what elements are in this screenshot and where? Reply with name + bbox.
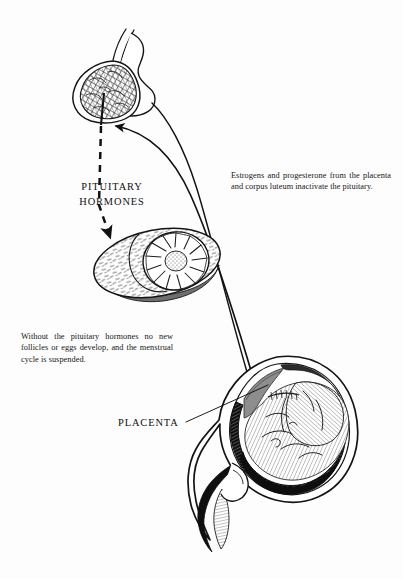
cervix-vagina	[198, 463, 248, 552]
label-pituitary-hormones-line1: PITUITARY	[56, 180, 168, 195]
anatomical-figure	[0, 0, 403, 579]
note-estrogens-progesterone: Estrogens and progesterone from the plac…	[231, 170, 391, 193]
label-pituitary-hormones: PITUITARY HORMONES	[56, 180, 168, 209]
pituitary-gland	[73, 29, 155, 123]
label-placenta: PLACENTA	[118, 416, 179, 429]
figure-page: PITUITARY HORMONES PLACENTA Estrogens an…	[0, 0, 403, 579]
note-without-pituitary-hormones: Without the pituitary hormones no new fo…	[21, 331, 173, 365]
label-pituitary-hormones-line2: HORMONES	[56, 195, 168, 210]
uterus-with-fetus	[188, 356, 358, 552]
